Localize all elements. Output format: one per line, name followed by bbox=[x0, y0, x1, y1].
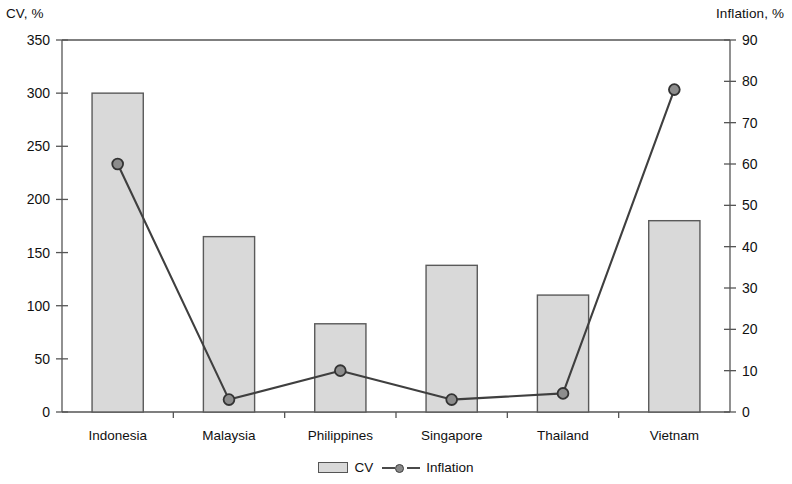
left-tick-label-50: 50 bbox=[0, 352, 50, 366]
right-tick-label-40: 40 bbox=[742, 240, 792, 254]
bar-swatch-icon bbox=[318, 462, 348, 473]
line-series-inflation bbox=[118, 90, 675, 400]
bar-malaysia bbox=[203, 237, 254, 412]
right-tick-label-0: 0 bbox=[742, 405, 792, 419]
right-tick-label-60: 60 bbox=[742, 157, 792, 171]
chart-legend: CV Inflation bbox=[0, 461, 792, 475]
legend-label-cv: CV bbox=[354, 461, 373, 475]
left-tick-label-350: 350 bbox=[0, 33, 50, 47]
left-tick-label-100: 100 bbox=[0, 299, 50, 313]
bar-vietnam bbox=[649, 221, 700, 412]
plot-frame bbox=[62, 40, 730, 412]
legend-label-inflation: Inflation bbox=[426, 461, 473, 475]
left-tick-label-250: 250 bbox=[0, 139, 50, 153]
category-label-singapore: Singapore bbox=[396, 429, 507, 443]
category-label-vietnam: Vietnam bbox=[619, 429, 730, 443]
category-label-thailand: Thailand bbox=[507, 429, 618, 443]
category-label-indonesia: Indonesia bbox=[62, 429, 173, 443]
bar-indonesia bbox=[92, 93, 143, 412]
right-tick-label-20: 20 bbox=[742, 322, 792, 336]
right-tick-label-90: 90 bbox=[742, 33, 792, 47]
plot-area bbox=[0, 0, 792, 484]
right-tick-label-50: 50 bbox=[742, 198, 792, 212]
line-markers-inflation bbox=[112, 84, 679, 405]
right-tick-label-80: 80 bbox=[742, 74, 792, 88]
axis-ticks bbox=[56, 40, 736, 418]
left-tick-label-0: 0 bbox=[0, 405, 50, 419]
legend-item-inflation: Inflation bbox=[382, 461, 473, 475]
inflation-marker-indonesia bbox=[112, 159, 123, 170]
left-tick-label-150: 150 bbox=[0, 246, 50, 260]
inflation-marker-thailand bbox=[558, 388, 569, 399]
right-tick-label-10: 10 bbox=[742, 364, 792, 378]
category-label-malaysia: Malaysia bbox=[173, 429, 284, 443]
left-tick-label-200: 200 bbox=[0, 192, 50, 206]
inflation-marker-singapore bbox=[446, 394, 457, 405]
inflation-line-path bbox=[118, 90, 675, 400]
category-label-philippines: Philippines bbox=[285, 429, 396, 443]
inflation-marker-vietnam bbox=[669, 84, 680, 95]
combo-bar-line-chart: CV, % Inflation, % 050100150200250300350… bbox=[0, 0, 792, 484]
left-tick-label-300: 300 bbox=[0, 86, 50, 100]
line-marker-swatch-icon bbox=[382, 462, 420, 473]
inflation-marker-malaysia bbox=[224, 394, 235, 405]
right-tick-label-30: 30 bbox=[742, 281, 792, 295]
bar-series-cv bbox=[92, 93, 700, 412]
legend-item-cv: CV bbox=[318, 461, 373, 475]
right-tick-label-70: 70 bbox=[742, 116, 792, 130]
inflation-marker-philippines bbox=[335, 365, 346, 376]
bar-singapore bbox=[426, 265, 477, 412]
